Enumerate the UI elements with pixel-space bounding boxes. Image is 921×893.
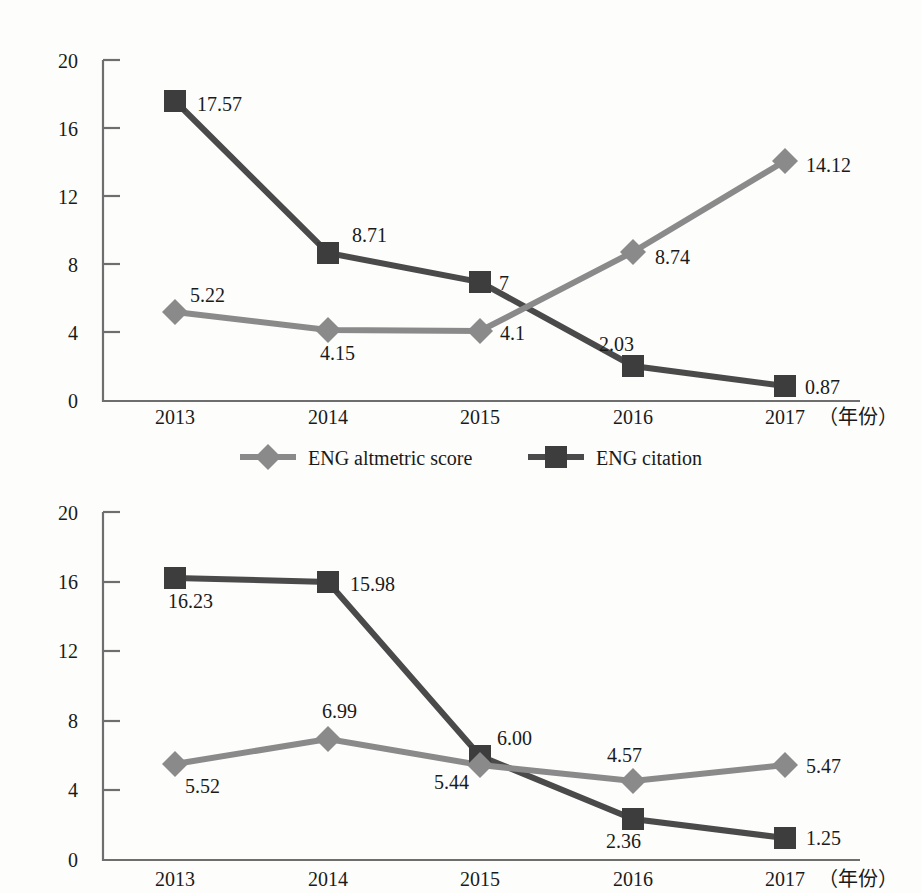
top-marker-citation-2017 [774, 375, 796, 397]
top-chart-legend: ENG altmetric score ENG citation [240, 444, 702, 470]
bottom-xtick-2013: 2013 [155, 868, 195, 890]
bottom-ytick-16: 16 [58, 571, 78, 593]
top-ytick-20: 20 [58, 50, 78, 72]
bottom-marker-citation-2017 [774, 827, 796, 849]
top-chart-plot: 20 16 12 8 4 0 17.57 8.71 7 2.03 [0, 0, 921, 490]
top-marker-altmetric-2014 [315, 317, 341, 343]
bottom-label-citation-2015: 6.00 [497, 727, 532, 749]
bottom-ytick-12: 12 [58, 640, 78, 662]
bottom-marker-citation-2014 [317, 571, 339, 593]
bottom-chart-figure: 20 16 12 8 4 0 16.23 15.98 6.00 2.36 [0, 490, 921, 893]
bottom-marker-altmetric-2017 [772, 752, 798, 778]
top-xtick-2017: 2017 [765, 406, 805, 428]
top-xaxis-unit: （年份） [818, 406, 898, 428]
top-label-altmetric-2014: 4.15 [320, 342, 355, 364]
top-chart-figure: 20 16 12 8 4 0 17.57 8.71 7 2.03 [0, 0, 921, 490]
top-ytick-0: 0 [68, 390, 78, 412]
legend-square-icon [545, 446, 567, 468]
bottom-series-citation-line [175, 578, 785, 838]
top-label-citation-2013: 17.57 [197, 93, 242, 115]
top-ytick-4: 4 [68, 322, 78, 344]
top-series-altmetric-line [175, 161, 785, 331]
bottom-marker-citation-2013 [164, 567, 186, 589]
top-marker-citation-2015 [469, 271, 491, 293]
top-label-citation-2017: 0.87 [805, 376, 840, 398]
top-ytick-8: 8 [68, 254, 78, 276]
bottom-ytick-4: 4 [68, 779, 78, 801]
top-marker-altmetric-2017 [772, 148, 798, 174]
top-xtick-2015: 2015 [460, 406, 500, 428]
top-label-altmetric-2017: 14.12 [806, 154, 851, 176]
bottom-xtick-2015: 2015 [460, 868, 500, 890]
top-marker-altmetric-2015 [467, 318, 493, 344]
top-label-altmetric-2013: 5.22 [190, 284, 225, 306]
top-label-citation-2014: 8.71 [352, 224, 387, 246]
bottom-ytick-0: 0 [68, 849, 78, 871]
top-marker-citation-2016 [622, 355, 644, 377]
bottom-chart-plot: 20 16 12 8 4 0 16.23 15.98 6.00 2.36 [0, 490, 921, 893]
bottom-xtick-2016: 2016 [613, 868, 653, 890]
bottom-ytick-20: 20 [58, 502, 78, 524]
top-ytick-16: 16 [58, 118, 78, 140]
bottom-chart-axes [103, 512, 860, 860]
top-xtick-2014: 2014 [308, 406, 348, 428]
top-marker-citation-2014 [317, 242, 339, 264]
top-label-altmetric-2016: 8.74 [655, 246, 690, 268]
top-xtick-2013: 2013 [155, 406, 195, 428]
bottom-label-citation-2013: 16.23 [168, 590, 213, 612]
legend-diamond-icon [255, 444, 281, 470]
bottom-marker-altmetric-2014 [315, 726, 341, 752]
bottom-label-citation-2017: 1.25 [806, 827, 841, 849]
bottom-label-altmetric-2017: 5.47 [806, 755, 841, 777]
bottom-ytick-8: 8 [68, 710, 78, 732]
top-marker-citation-2013 [164, 90, 186, 112]
bottom-marker-altmetric-2016 [620, 768, 646, 794]
bottom-xaxis-unit: （年份） [818, 868, 898, 890]
top-xtick-2016: 2016 [613, 406, 653, 428]
bottom-xtick-2017: 2017 [765, 868, 805, 890]
top-marker-altmetric-2016 [620, 239, 646, 265]
top-label-altmetric-2015: 4.1 [500, 322, 525, 344]
bottom-label-altmetric-2016: 4.57 [607, 744, 642, 766]
legend-label-altmetric: ENG altmetric score [308, 447, 472, 469]
bottom-label-altmetric-2013: 5.52 [185, 775, 220, 797]
bottom-label-citation-2014: 15.98 [350, 573, 395, 595]
bottom-xtick-2014: 2014 [308, 868, 348, 890]
bottom-marker-altmetric-2013 [162, 751, 188, 777]
bottom-label-altmetric-2015: 5.44 [434, 771, 469, 793]
bottom-label-citation-2016: 2.36 [606, 830, 641, 852]
top-marker-altmetric-2013 [162, 299, 188, 325]
top-label-citation-2015: 7 [499, 272, 509, 294]
bottom-label-altmetric-2014: 6.99 [322, 700, 357, 722]
legend-label-citation: ENG citation [596, 447, 702, 469]
bottom-marker-citation-2016 [622, 808, 644, 830]
top-label-citation-2016: 2.03 [599, 333, 634, 355]
top-ytick-12: 12 [58, 186, 78, 208]
